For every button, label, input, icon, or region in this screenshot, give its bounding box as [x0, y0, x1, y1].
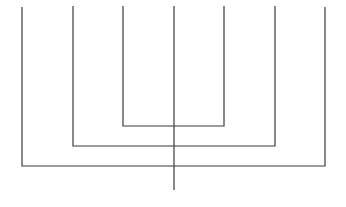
diagram-canvas — [0, 0, 346, 207]
